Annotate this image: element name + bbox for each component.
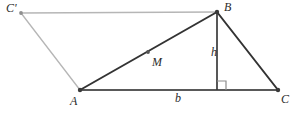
point-marker-m <box>146 50 150 54</box>
point-label-b: B <box>224 1 231 13</box>
point-marker-b <box>215 10 219 14</box>
figure-canvas <box>0 0 294 118</box>
point-marker-a <box>78 88 82 92</box>
point-label-c: C <box>281 93 289 105</box>
segment-cprime-to-a <box>21 13 80 90</box>
segment-cprime-to-b <box>21 12 217 13</box>
measure-label-base: b <box>175 92 181 104</box>
measure-label-height: h <box>211 46 217 58</box>
right-angle-icon <box>217 81 226 90</box>
point-label-cprime: C' <box>6 2 17 14</box>
point-marker-cprime <box>19 11 23 15</box>
geometry-figure: C' B A C M h b <box>0 0 294 118</box>
point-label-m: M <box>152 56 162 68</box>
point-label-a: A <box>70 95 77 107</box>
segment-b-to-c <box>217 12 278 90</box>
point-marker-c <box>276 88 280 92</box>
